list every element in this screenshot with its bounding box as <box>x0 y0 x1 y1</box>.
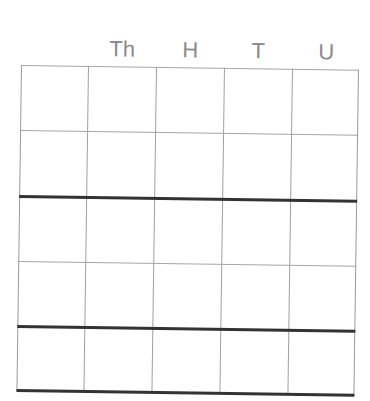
row-divider <box>20 130 358 136</box>
column-divider <box>83 66 89 392</box>
row-divider-top <box>21 65 359 71</box>
header-thousands: Th <box>88 36 156 63</box>
header-hundreds: H <box>156 37 224 64</box>
column-divider <box>287 69 293 395</box>
row-divider <box>18 261 356 267</box>
place-value-grid <box>16 65 359 396</box>
column-divider <box>151 67 157 393</box>
thick-row-separator-bottom <box>16 389 354 397</box>
thick-row-separator <box>19 195 357 203</box>
header-units: U <box>292 39 360 66</box>
header-tens: T <box>224 38 292 65</box>
worksheet: Th H T U <box>0 0 370 401</box>
thick-row-separator <box>17 325 355 333</box>
column-divider <box>219 68 225 394</box>
